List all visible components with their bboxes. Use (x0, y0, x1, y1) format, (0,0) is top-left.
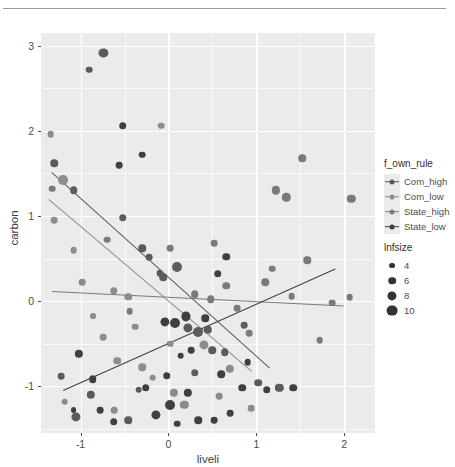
legend-key-point (390, 194, 395, 199)
scatter-point (97, 407, 104, 414)
scatter-point (289, 384, 297, 392)
y-tick-label: 3 (8, 40, 34, 52)
scatter-point (58, 373, 65, 380)
scatter-point (347, 195, 355, 203)
scatter-point (204, 326, 212, 334)
scatter-point (119, 214, 127, 222)
scatter-point (174, 420, 181, 427)
gridline-major-vertical (256, 33, 257, 433)
y-axis-label: carbon (8, 178, 20, 278)
size-legend-item-8[interactable]: 8 (384, 288, 415, 303)
scatter-point (191, 369, 199, 377)
scatter-point (234, 305, 241, 312)
size-legend-item-4[interactable]: 4 (384, 258, 415, 273)
legend-item-state_low[interactable]: State_low (384, 219, 449, 234)
scatter-point (138, 245, 146, 253)
scatter-point (146, 253, 153, 260)
size-legend-key-point (388, 277, 396, 285)
y-tick-label: 2 (8, 125, 34, 137)
scatter-point (142, 384, 150, 392)
scatter-point (246, 330, 253, 337)
scatter-point (202, 314, 210, 322)
gridline-major-horizontal (41, 216, 375, 217)
legend-key-point (390, 224, 395, 229)
scatter-point (282, 193, 290, 201)
size-legend-key-swatch (384, 288, 400, 303)
scatter-point (50, 159, 58, 167)
scatter-point (184, 389, 192, 397)
scatter-point (159, 273, 167, 281)
y-tick-mark (38, 386, 41, 387)
scatter-point (346, 293, 353, 300)
scatter-point (126, 308, 133, 315)
legend-key-point (390, 209, 395, 214)
scatter-point (119, 122, 127, 130)
scatter-point (167, 340, 174, 347)
y-tick-mark (38, 131, 41, 132)
scatter-point (298, 154, 306, 162)
gridline-minor-vertical (212, 33, 213, 433)
gridline-minor-horizontal (41, 259, 375, 260)
chart-plot: -1012 -10123 liveli carbon f_own_rule Co… (0, 10, 455, 467)
scatter-point (254, 379, 262, 387)
scatter-point (124, 416, 132, 424)
scatter-point (51, 217, 58, 224)
gridline-major-vertical (344, 33, 345, 433)
scatter-point (110, 287, 118, 295)
scatter-point (149, 374, 156, 381)
scatter-point (139, 151, 146, 158)
scatter-point (152, 411, 161, 420)
scatter-point (304, 256, 312, 264)
y-tick-mark (38, 216, 41, 217)
scatter-point (248, 405, 255, 412)
size-legend-item-label: 8 (404, 290, 409, 301)
legend-item-state_high[interactable]: State_high (384, 204, 449, 219)
size-legend-title: lnfsize (384, 242, 415, 253)
scatter-point (86, 66, 93, 73)
scatter-point (180, 401, 188, 409)
y-tick-mark (38, 46, 41, 47)
legend-key-point (390, 179, 395, 184)
y-tick-label: 0 (8, 295, 34, 307)
size-legend-key-point (389, 263, 395, 269)
size-legend-item-label: 4 (404, 260, 409, 271)
scatter-point (71, 407, 77, 413)
size-legend: lnfsize 46810 (384, 242, 415, 318)
legend-item-label: State_high (404, 206, 449, 217)
size-legend-key-swatch (384, 258, 400, 273)
scatter-point (244, 359, 251, 366)
scatter-point (110, 418, 118, 426)
scatter-point (329, 299, 336, 306)
scatter-point (211, 240, 218, 247)
scatter-point (191, 291, 199, 299)
scatter-point (195, 416, 203, 424)
size-legend-item-label: 6 (404, 275, 409, 286)
scatter-point (72, 412, 81, 421)
scatter-point (193, 327, 203, 337)
legend-item-com_high[interactable]: Com_high (384, 174, 449, 189)
legend-item-com_low[interactable]: Com_low (384, 189, 449, 204)
scatter-point (163, 372, 171, 380)
gridline-major-horizontal (41, 386, 375, 387)
size-legend-item-6[interactable]: 6 (384, 273, 415, 288)
gridline-minor-vertical (125, 33, 126, 433)
scatter-point (99, 48, 108, 57)
size-legend-key-point (387, 291, 396, 300)
y-tick-label: -1 (8, 380, 34, 392)
scatter-point (49, 185, 56, 192)
scatter-point (79, 279, 86, 286)
scatter-point (272, 186, 280, 194)
scatter-point (223, 282, 231, 290)
gridline-major-vertical (81, 33, 82, 433)
scatter-point (138, 364, 146, 372)
gridline-major-horizontal (41, 131, 375, 132)
size-legend-item-10[interactable]: 10 (384, 303, 415, 318)
scatter-point (116, 162, 123, 169)
scatter-point (221, 348, 229, 356)
gridline-minor-horizontal (41, 429, 375, 430)
scatter-point (61, 398, 68, 405)
y-tick-mark (38, 301, 41, 302)
scatter-point (89, 376, 97, 384)
scatter-point (70, 187, 78, 195)
legend-item-label: Com_low (404, 191, 444, 202)
